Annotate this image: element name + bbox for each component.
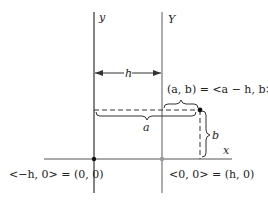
right-origin-label: <0, 0> = (h, 0) xyxy=(169,168,254,181)
x-axis-label: x xyxy=(223,144,230,157)
brace-a-minus-h xyxy=(164,100,198,108)
origin-dot-right xyxy=(160,157,164,161)
origin-dot-left xyxy=(92,157,96,161)
brace-a xyxy=(96,112,196,120)
a-label: a xyxy=(143,121,150,134)
point-ab xyxy=(198,108,203,113)
point-label: (a, b) = <a − h, b> xyxy=(167,83,268,96)
brace-b xyxy=(202,111,210,157)
h-label: h xyxy=(125,67,132,80)
left-origin-label: <−h, 0> = (0, 0) xyxy=(9,168,104,181)
y-axis-label: y xyxy=(98,11,106,24)
b-label: b xyxy=(212,129,219,142)
Y-axis-label: Y xyxy=(168,13,177,26)
translation-diagram: y Y x h (a, b) = <a − h, b> a b <−h, 0> … xyxy=(0,0,268,203)
